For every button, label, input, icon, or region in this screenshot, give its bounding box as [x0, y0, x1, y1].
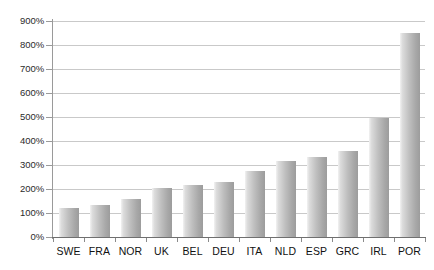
bar-uk[interactable] [152, 188, 172, 237]
x-axis-tick [177, 238, 178, 242]
y-axis-tick [46, 21, 52, 22]
x-axis-tick [425, 238, 426, 242]
bar-slot [177, 21, 208, 237]
bar-slot [332, 21, 363, 237]
bar-slot [115, 21, 146, 237]
bar-esp[interactable] [307, 157, 327, 237]
bar-slot [270, 21, 301, 237]
bar-deu[interactable] [214, 182, 234, 237]
bar-chart: 0%100%200%300%400%500%600%700%800%900% S… [0, 0, 434, 270]
y-axis-label: 900% [0, 15, 44, 26]
x-axis-tick [84, 238, 85, 242]
bar-irl[interactable] [369, 118, 389, 237]
x-axis-tick [301, 238, 302, 242]
bar-nor[interactable] [121, 199, 141, 237]
y-axis-label: 700% [0, 63, 44, 74]
y-axis-label: 600% [0, 87, 44, 98]
bar-por[interactable] [400, 33, 420, 237]
bar-nld[interactable] [276, 161, 296, 237]
y-axis-label: 300% [0, 159, 44, 170]
y-axis-tick [46, 141, 52, 142]
y-axis-tick [46, 213, 52, 214]
x-axis-label-por: POR [387, 245, 433, 257]
bar-swe[interactable] [59, 208, 79, 237]
bar-fra[interactable] [90, 205, 110, 237]
y-axis-label: 500% [0, 111, 44, 122]
x-axis-tick [332, 238, 333, 242]
bar-bel[interactable] [183, 185, 203, 237]
bar-slot [239, 21, 270, 237]
bar-slot [84, 21, 115, 237]
x-axis-tick [270, 238, 271, 242]
x-axis-tick [363, 238, 364, 242]
x-axis-tick [239, 238, 240, 242]
bar-grc[interactable] [338, 151, 358, 237]
bar-slot [394, 21, 425, 237]
x-axis-tick [115, 238, 116, 242]
bar-slot [208, 21, 239, 237]
y-axis-label: 0% [0, 231, 44, 242]
x-axis-tick [53, 238, 54, 242]
bars-layer [53, 21, 425, 237]
y-axis-tick [46, 69, 52, 70]
bar-slot [363, 21, 394, 237]
y-axis-tick [46, 45, 52, 46]
bar-slot [146, 21, 177, 237]
x-axis-tick [146, 238, 147, 242]
y-axis-line [52, 19, 53, 239]
y-axis-label: 400% [0, 135, 44, 146]
y-axis-label: 800% [0, 39, 44, 50]
y-axis-tick [46, 237, 52, 238]
y-axis-label: 200% [0, 183, 44, 194]
x-axis-tick [394, 238, 395, 242]
x-axis-tick [208, 238, 209, 242]
y-axis-tick [46, 117, 52, 118]
bar-ita[interactable] [245, 171, 265, 237]
y-axis-tick [46, 93, 52, 94]
y-axis-tick [46, 189, 52, 190]
y-axis-tick [46, 165, 52, 166]
bar-slot [53, 21, 84, 237]
y-axis-label: 100% [0, 207, 44, 218]
bar-slot [301, 21, 332, 237]
